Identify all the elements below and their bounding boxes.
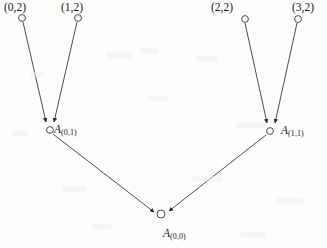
node-label-n02: (0,2) xyxy=(4,2,26,14)
graph-node-n22[interactable] xyxy=(242,16,249,23)
label-base: A xyxy=(281,124,288,136)
graph-edge xyxy=(53,134,154,212)
graph-node-n02[interactable] xyxy=(19,15,26,22)
label-subscript: (0,1) xyxy=(61,128,77,137)
graph-node-n32[interactable] xyxy=(295,16,302,23)
node-label-a11: A(1,1) xyxy=(281,125,304,138)
node-label-n12: (1,2) xyxy=(61,2,83,14)
graph-node-n12[interactable] xyxy=(75,15,82,22)
node-label-n32: (3,2) xyxy=(292,2,314,14)
label-base: A xyxy=(163,227,170,239)
node-label-a00: A(0,0) xyxy=(163,228,186,241)
figure-canvas: (0,2)(1,2)(2,2)(3,2)A(0,1)A(1,1)A(0,0) xyxy=(0,0,327,248)
graph-svg xyxy=(0,0,327,248)
graph-node-a00[interactable] xyxy=(157,210,165,218)
label-base: A xyxy=(54,123,61,135)
node-label-n22: (2,2) xyxy=(211,2,233,14)
node-layer xyxy=(19,15,302,218)
graph-edge xyxy=(23,22,46,122)
label-subscript: (1,1) xyxy=(288,129,304,138)
edge-layer xyxy=(23,22,297,212)
graph-node-a01[interactable] xyxy=(47,127,54,134)
label-subscript: (0,0) xyxy=(170,232,186,241)
graph-edge xyxy=(245,23,267,123)
graph-edge xyxy=(54,22,77,122)
graph-edge xyxy=(275,23,297,123)
graph-edge xyxy=(169,135,266,211)
node-label-a01: A(0,1) xyxy=(54,124,77,137)
graph-node-a11[interactable] xyxy=(267,128,274,135)
